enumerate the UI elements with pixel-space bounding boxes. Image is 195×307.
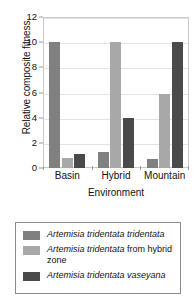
legend-item: Artemisia tridentata tridentata	[23, 229, 175, 240]
bar-group	[43, 17, 92, 168]
x-axis-title: Environment	[43, 187, 189, 199]
legend-label-species: Artemisia tridentata tridentata	[47, 229, 165, 239]
y-axis-tick-labels: 024681012	[0, 17, 43, 168]
bar	[62, 158, 73, 168]
legend-label: Artemisia tridentata tridentata	[47, 229, 165, 240]
y-axis-tick-label: 4	[32, 113, 37, 123]
x-axis-tick-label: Hybrid	[102, 170, 131, 182]
x-axis-tick-labels: BasinHybridMountain	[43, 170, 189, 186]
x-axis-tick-label: Mountain	[144, 170, 185, 182]
bars-layer	[43, 17, 189, 168]
y-axis-tick-label: 2	[32, 138, 37, 148]
bar-group	[140, 17, 189, 168]
bar	[123, 118, 134, 168]
x-axis-tick-mark	[188, 166, 189, 170]
y-axis-tick-label: 6	[32, 88, 37, 98]
x-axis-tick-mark	[140, 166, 141, 170]
y-axis-tick-label: 12	[26, 12, 37, 22]
y-axis-tick-label: 0	[32, 163, 37, 173]
x-axis-tick-label: Basin	[55, 170, 80, 182]
bar	[159, 94, 170, 168]
bar	[49, 42, 60, 168]
legend-item: Artemisia tridentata vaseyana	[23, 270, 175, 281]
legend-label-species: Artemisia tridentata	[47, 244, 125, 254]
legend-swatch	[23, 246, 40, 255]
legend-swatch	[23, 231, 40, 240]
legend: Artemisia tridentata tridentataArtemisia…	[15, 222, 181, 294]
legend-swatch	[23, 272, 40, 281]
bar-group	[92, 17, 141, 168]
y-axis-tick-label: 10	[26, 37, 37, 47]
bar	[172, 42, 183, 168]
legend-label: Artemisia tridentata vaseyana	[47, 270, 166, 281]
bar-chart-figure: Relative composite fitness 024681012 Bas…	[0, 0, 195, 212]
bar	[147, 159, 158, 168]
legend-item: Artemisia tridentata from hybrid zone	[23, 244, 175, 266]
x-axis-tick-mark	[43, 166, 44, 170]
bar	[74, 154, 85, 168]
legend-label: Artemisia tridentata from hybrid zone	[47, 244, 175, 266]
y-axis-tick-label: 8	[32, 62, 37, 72]
bar	[98, 152, 109, 168]
legend-label-species: Artemisia tridentata vaseyana	[47, 270, 166, 280]
bar	[110, 42, 121, 168]
x-axis-tick-mark	[92, 166, 93, 170]
